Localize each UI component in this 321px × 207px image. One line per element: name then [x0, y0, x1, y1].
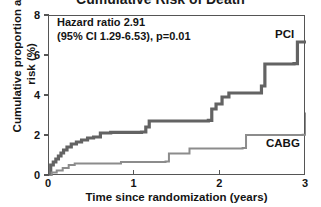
y-tick-label: 6: [26, 50, 40, 61]
x-tick-label: 1: [124, 178, 144, 189]
series-label-pci: PCI: [275, 28, 294, 40]
chart-screenshot: Cumulative Risk of Death Cumulative prop…: [0, 0, 321, 207]
x-tick-mark: [219, 170, 221, 175]
x-tick-label: 0: [38, 178, 58, 189]
x-axis-title: Time since randomization (years): [48, 191, 305, 203]
y-tick-mark: [44, 174, 49, 176]
confidence-interval-line: (95% CI 1.29-6.53), p=0.01: [57, 30, 191, 44]
y-tick-label: 4: [26, 90, 40, 101]
y-tick-mark: [44, 54, 49, 56]
page-title: Cumulative Risk of Death: [0, 0, 321, 7]
y-tick-mark: [44, 94, 49, 96]
statistics-annotation: Hazard ratio 2.91 (95% CI 1.29-6.53), p=…: [57, 16, 191, 43]
x-tick-label: 3: [295, 178, 315, 189]
series-line-pci: [49, 42, 306, 176]
x-tick-mark: [133, 170, 135, 175]
hazard-ratio-line: Hazard ratio 2.91: [57, 16, 191, 30]
y-axis-title: Cumulative proportion at risk (%): [10, 0, 38, 144]
y-tick-label: 8: [26, 10, 40, 21]
x-tick-label: 2: [209, 178, 229, 189]
series-label-cabg: CABG: [266, 137, 300, 149]
y-tick-mark: [44, 14, 49, 16]
y-tick-mark: [44, 134, 49, 136]
y-tick-label: 2: [26, 130, 40, 141]
